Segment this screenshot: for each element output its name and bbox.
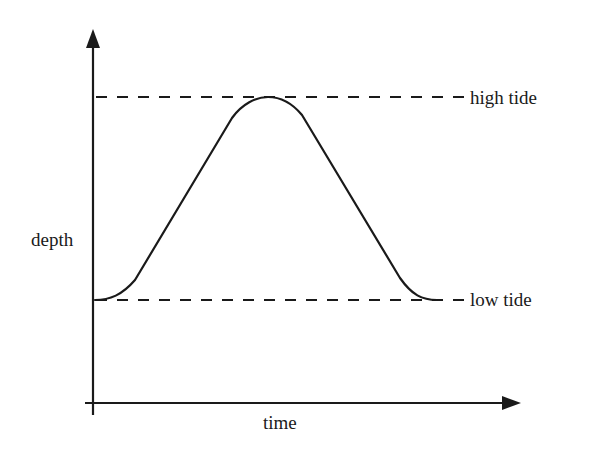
y-axis-arrow-icon — [86, 29, 100, 48]
low-tide-label: low tide — [470, 290, 532, 309]
x-axis-arrow-icon — [502, 396, 521, 410]
tide-curve — [95, 97, 437, 300]
tide-depth-diagram — [0, 0, 597, 451]
y-axis-label: depth — [31, 230, 73, 249]
high-tide-label: high tide — [470, 88, 537, 107]
x-axis — [85, 396, 521, 410]
y-axis — [86, 29, 100, 415]
x-axis-label: time — [263, 413, 297, 432]
